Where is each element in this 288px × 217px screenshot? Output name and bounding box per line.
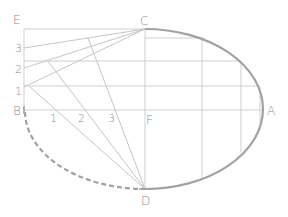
label-B: B (13, 104, 21, 118)
ray-D-2 (48, 61, 145, 189)
rays-from-C (24, 29, 145, 87)
side-division-labels: 3 2 1 (15, 42, 22, 98)
label-E: E (13, 13, 21, 27)
ray-C-1 (24, 29, 145, 87)
axis-label-3: 3 (108, 112, 115, 125)
label-A: A (267, 104, 275, 118)
ellipse-lower-left-dashed (25, 112, 145, 189)
ellipse-right-half (145, 29, 263, 189)
axis-label-1: 1 (50, 112, 57, 125)
label-D: D (141, 194, 150, 208)
side-label-1: 1 (15, 85, 22, 98)
ray-C-3 (24, 29, 145, 48)
label-C: C (140, 14, 148, 28)
ray-D-1 (30, 87, 145, 189)
side-label-2: 2 (15, 63, 22, 76)
ellipse-construction-diagram: E C B F A D 3 2 1 1 2 3 (0, 0, 288, 217)
label-F: F (146, 113, 153, 127)
ray-C-2 (24, 29, 145, 68)
side-label-3: 3 (15, 42, 22, 55)
grid-lines (24, 38, 260, 180)
axis-label-2: 2 (78, 112, 85, 125)
